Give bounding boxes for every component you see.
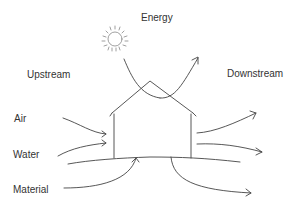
- flow-diagram: [0, 0, 297, 207]
- label-energy: Energy: [141, 12, 173, 23]
- sun-icon: [102, 26, 128, 51]
- water-arrow: [58, 143, 106, 156]
- air-out-arrow: [197, 113, 256, 133]
- house-outline: [110, 81, 196, 158]
- material-out-arrow: [171, 157, 251, 193]
- water-out-arrow: [197, 144, 262, 152]
- ground-line: [68, 157, 240, 164]
- air-arrow: [63, 118, 106, 134]
- energy-in-line: [124, 59, 160, 98]
- label-material: Material: [13, 184, 49, 195]
- label-water: Water: [13, 149, 39, 160]
- label-upstream: Upstream: [27, 69, 70, 80]
- label-air: Air: [14, 113, 26, 124]
- label-downstream: Downstream: [227, 68, 283, 79]
- energy-out-arrow: [160, 58, 198, 98]
